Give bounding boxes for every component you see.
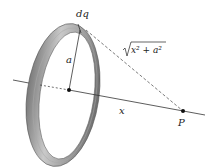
x-label: x bbox=[119, 105, 125, 116]
ring-diagram: dq a x P x² + a² bbox=[0, 0, 218, 168]
dq-label: dq bbox=[76, 8, 89, 19]
charged-ring bbox=[17, 19, 108, 168]
hypotenuse-text: x² + a² bbox=[131, 45, 162, 55]
radius-label: a bbox=[66, 54, 72, 65]
p-label: P bbox=[177, 117, 185, 128]
hypotenuse-label: x² + a² bbox=[123, 42, 166, 56]
point-p-dot bbox=[181, 109, 185, 113]
center-dot bbox=[67, 88, 71, 92]
